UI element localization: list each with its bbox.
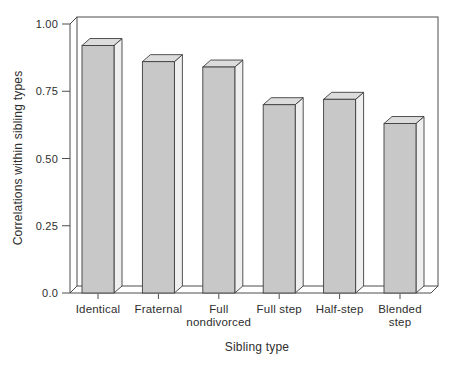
y-tick-label: 1.00	[36, 18, 58, 30]
category-label-blended-step: Blendedstep	[378, 303, 422, 328]
category-label-fraternal: Fraternal	[134, 303, 182, 315]
y-tick-label: 0.25	[36, 220, 58, 232]
bar-blended-step	[384, 124, 416, 293]
chart-canvas: 0.00.250.500.751.00IdenticalFraternalFul…	[0, 0, 458, 374]
bottom-right-depth-line	[431, 286, 438, 293]
y-axis-title: Correlations within sibling types	[11, 71, 25, 246]
bar-full-step	[263, 105, 295, 293]
y-tick-label: 0.75	[36, 85, 58, 97]
bar-side-full-step	[295, 98, 303, 293]
category-label-full-step: Full step	[257, 303, 302, 315]
bar-fraternal	[142, 62, 174, 293]
bar-side-fraternal	[174, 55, 182, 293]
category-label-full-nondivorced: Fullnondivorced	[186, 303, 251, 328]
bar-half-step	[324, 99, 356, 293]
top-left-depth-line	[70, 17, 77, 24]
bar-side-blended-step	[416, 117, 424, 293]
bar-full-nondivorced	[203, 67, 235, 293]
x-axis-title: Sibling type	[225, 340, 290, 354]
y-tick-label: 0.0	[42, 287, 58, 299]
bar-side-full-nondivorced	[235, 60, 243, 293]
category-label-half-step: Half-step	[316, 303, 364, 315]
chart-plot-area: 0.00.250.500.751.00IdenticalFraternalFul…	[36, 17, 438, 328]
sibling-correlation-bar-chart: 0.00.250.500.751.00IdenticalFraternalFul…	[0, 0, 458, 374]
category-label-identical: Identical	[76, 303, 121, 315]
bar-identical	[82, 46, 114, 293]
bar-side-half-step	[356, 92, 364, 293]
origin-depth-line	[70, 286, 77, 293]
y-tick-label: 0.50	[36, 153, 58, 165]
bar-side-identical	[114, 39, 122, 293]
